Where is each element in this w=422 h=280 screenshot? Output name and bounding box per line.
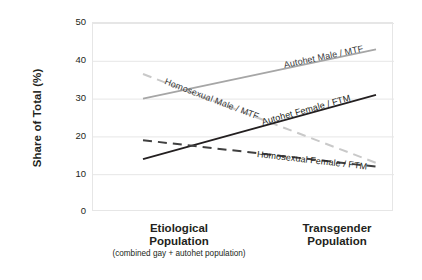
x-axis-label-etiological-sub: (combined gay + autohet population) xyxy=(36,249,322,259)
x-axis-label-transgender-line2: Population xyxy=(262,235,412,248)
plot-area: Homosexual Male / MTF Autohet Male / MTF… xyxy=(92,22,393,211)
y-axis-title: Share of Total (%) xyxy=(31,33,43,203)
y-tick-40: 40 xyxy=(60,55,86,65)
y-tick-10: 10 xyxy=(60,169,86,179)
chart-root: Share of Total (%) 50 40 30 20 10 0 Homo… xyxy=(0,0,422,280)
x-axis-label-transgender: Transgender Population xyxy=(262,222,412,248)
y-tick-20: 20 xyxy=(60,131,86,141)
y-tick-0: 0 xyxy=(60,206,86,216)
x-axis-label-transgender-line1: Transgender xyxy=(262,222,412,235)
y-tick-50: 50 xyxy=(60,17,86,27)
y-tick-30: 30 xyxy=(60,93,86,103)
